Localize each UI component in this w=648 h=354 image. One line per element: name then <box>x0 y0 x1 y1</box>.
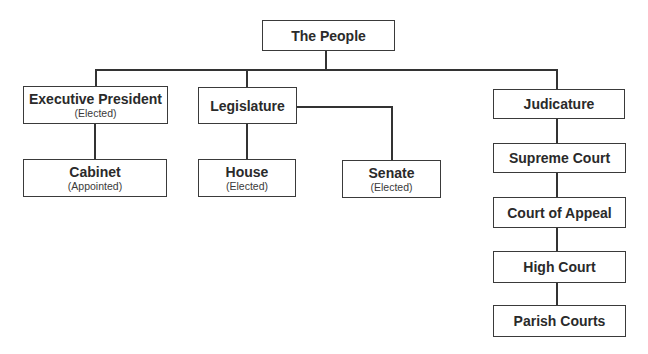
node-high-court: High Court <box>493 251 626 283</box>
connector-high-parish <box>556 282 558 305</box>
node-supreme-court: Supreme Court <box>493 143 626 173</box>
node-label: High Court <box>523 259 595 275</box>
connector-judicature-supreme <box>556 118 558 143</box>
node-senate: Senate (Elected) <box>342 160 441 198</box>
connector-appeal-high <box>556 227 558 251</box>
node-label: Executive President <box>29 91 162 107</box>
node-legislature: Legislature <box>198 87 297 124</box>
node-executive-president: Executive President (Elected) <box>23 86 168 124</box>
node-note: (Elected) <box>226 180 268 192</box>
node-label: The People <box>291 28 366 44</box>
node-cabinet: Cabinet (Appointed) <box>23 159 167 197</box>
connector-branch-bar <box>95 69 557 71</box>
node-parish-courts: Parish Courts <box>493 305 626 337</box>
connector-people-down <box>325 50 327 70</box>
node-note: (Elected) <box>370 181 412 193</box>
node-label: Parish Courts <box>514 313 606 329</box>
connector-to-executive <box>95 69 97 86</box>
node-label: Judicature <box>524 96 595 112</box>
connector-legislature-senate-v <box>391 106 393 160</box>
node-label: Cabinet <box>69 164 120 180</box>
connector-to-legislature <box>246 69 248 87</box>
node-judicature: Judicature <box>493 89 625 119</box>
node-label: Supreme Court <box>509 150 610 166</box>
node-house: House (Elected) <box>198 159 296 197</box>
node-note: (Elected) <box>74 107 116 119</box>
connector-executive-cabinet <box>94 123 96 159</box>
connector-legislature-house <box>246 123 248 159</box>
node-label: Court of Appeal <box>507 205 611 221</box>
node-the-people: The People <box>262 20 395 51</box>
connector-supreme-appeal <box>556 172 558 197</box>
node-court-of-appeal: Court of Appeal <box>493 197 626 228</box>
node-label: House <box>226 164 269 180</box>
node-label: Legislature <box>210 98 285 114</box>
connector-legislature-senate-h <box>296 106 392 108</box>
node-label: Senate <box>369 165 415 181</box>
connector-to-judicature <box>556 69 558 89</box>
node-note: (Appointed) <box>68 180 122 192</box>
